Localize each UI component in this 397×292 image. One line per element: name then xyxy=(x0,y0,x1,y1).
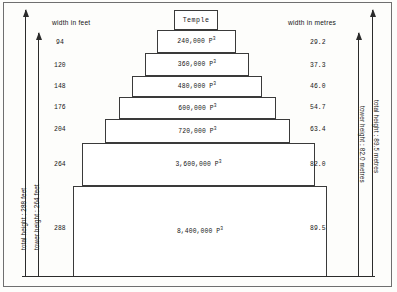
total-height-feet-label: total height : 288 feet xyxy=(20,188,27,250)
width-feet-94: 94 xyxy=(56,39,64,46)
arrow-head-icon xyxy=(36,32,42,40)
width-feet-264: 264 xyxy=(54,161,66,168)
tier-360000-volume: 360,000 P xyxy=(178,61,213,68)
width-metres-63-4: 63.4 xyxy=(310,126,326,133)
tier-temple: Temple xyxy=(174,10,218,30)
tier-720000-volume: 720,000 P xyxy=(178,128,213,135)
tier-480000-volume: 480,000 P xyxy=(178,83,213,90)
tier-600000: 600,000 P3 xyxy=(119,97,276,119)
tier-480000: 480,000 P3 xyxy=(132,76,262,97)
tower-height-metres-label: tower height : 82.0 metres xyxy=(359,106,366,183)
arrow-head-icon xyxy=(356,32,362,40)
width-metres-54-7: 54.7 xyxy=(310,104,326,111)
tier-3600000-exponent: 3 xyxy=(219,159,222,164)
ground-line xyxy=(22,276,375,277)
tier-720000: 720,000 P3 xyxy=(105,119,290,143)
tier-360000-label: 360,000 P3 xyxy=(178,61,216,68)
tier-720000-exponent: 3 xyxy=(214,125,217,130)
tier-temple-label: Temple xyxy=(183,17,210,24)
width-metres-29-2: 29.2 xyxy=(310,39,326,46)
tier-3600000-label: 3,600,000 P3 xyxy=(175,161,221,168)
left-column-header: width in feet xyxy=(52,19,90,26)
width-metres-37-3: 37.3 xyxy=(310,62,326,69)
width-feet-120: 120 xyxy=(54,62,66,69)
tier-8400000-exponent: 3 xyxy=(220,226,223,231)
tier-480000-label: 480,000 P3 xyxy=(178,83,216,90)
width-metres-82-0: 82.0 xyxy=(310,161,326,168)
width-feet-148: 148 xyxy=(54,83,66,90)
tier-240000-exponent: 3 xyxy=(213,36,216,41)
tier-480000-exponent: 3 xyxy=(213,81,216,86)
width-feet-288: 288 xyxy=(54,225,66,232)
tier-600000-label: 600,000 P3 xyxy=(178,105,216,112)
width-feet-204: 204 xyxy=(54,126,66,133)
tier-360000-exponent: 3 xyxy=(213,59,216,64)
tower-height-feet-label: tower height : 264 feet xyxy=(33,184,40,250)
pyramid-diagram: total height : 288 feet tower height : 2… xyxy=(0,0,397,292)
tier-240000: 240,000 P3 xyxy=(157,30,236,53)
tier-8400000-label: 8,400,000 P3 xyxy=(177,228,223,235)
tier-360000: 360,000 P3 xyxy=(145,53,249,76)
tier-240000-label: 240,000 P3 xyxy=(177,38,215,45)
tier-3600000: 3,600,000 P3 xyxy=(82,143,315,186)
tier-600000-volume: 600,000 P xyxy=(178,105,213,112)
arrow-head-icon xyxy=(370,9,376,17)
width-feet-176: 176 xyxy=(54,104,66,111)
tier-8400000-volume: 8,400,000 P xyxy=(177,228,220,235)
tier-720000-label: 720,000 P3 xyxy=(178,128,216,135)
arrow-head-icon xyxy=(23,9,29,17)
width-metres-89-5: 89.5 xyxy=(310,225,326,232)
tier-600000-exponent: 3 xyxy=(214,102,217,107)
tier-240000-volume: 240,000 P xyxy=(177,38,212,45)
tier-3600000-volume: 3,600,000 P xyxy=(175,161,218,168)
width-metres-46-0: 46.0 xyxy=(310,83,326,90)
tier-8400000: 8,400,000 P3 xyxy=(73,186,327,277)
total-height-metres-label: total height : 89.5 metres xyxy=(373,100,380,173)
right-column-header: width in metres xyxy=(288,19,336,26)
